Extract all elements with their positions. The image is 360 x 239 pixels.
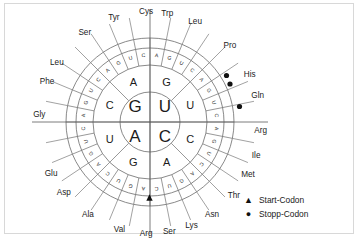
leader-line-20 xyxy=(75,181,91,197)
third-base-22: U xyxy=(82,139,89,145)
leader-line-17 xyxy=(129,204,133,226)
third-base-9: G xyxy=(211,139,218,145)
amino-acid-label-his-9: His xyxy=(244,70,256,79)
amino-acid-label-gly-0: Gly xyxy=(33,110,46,119)
amino-acid-label-pro-8: Pro xyxy=(223,41,236,50)
second-base-4: G xyxy=(129,156,138,168)
second-base-2: C xyxy=(186,133,194,145)
leader-line-2 xyxy=(182,24,190,44)
ring3-divider-19 xyxy=(103,169,118,191)
leader-line-27 xyxy=(62,63,80,75)
stop-codon-marker-uag xyxy=(227,81,232,86)
amino-acid-label-glu-22: Glu xyxy=(45,169,58,178)
ring2-divider-5 xyxy=(110,143,129,162)
leader-line-10 xyxy=(228,154,248,162)
amino-acid-label-tyr-4: Tyr xyxy=(108,13,120,22)
third-base-17: G xyxy=(128,183,134,190)
leader-line-1 xyxy=(166,18,170,40)
leader-line-12 xyxy=(209,181,225,197)
leader-line-30 xyxy=(109,24,117,44)
ring3-divider-27 xyxy=(80,75,102,90)
leader-line-31 xyxy=(129,18,133,40)
third-base-21: G xyxy=(87,150,94,156)
ring3-divider-25 xyxy=(68,106,94,111)
third-base-30: U xyxy=(128,54,134,61)
leader-line-23 xyxy=(46,138,68,142)
third-base-6: U xyxy=(211,100,218,106)
first-base-c-2: C xyxy=(159,127,171,146)
third-base-29: G xyxy=(115,59,121,66)
second-base-1: U xyxy=(186,99,194,111)
stop-codon-marker-uaa xyxy=(224,73,229,78)
amino-acid-label-asn-15: Asn xyxy=(205,210,220,219)
start-codon-marker-aug xyxy=(146,194,152,200)
amino-acid-label-thr-14: Thr xyxy=(228,191,241,200)
leader-line-26 xyxy=(52,81,72,89)
leader-line-7 xyxy=(232,101,254,105)
third-base-24: A xyxy=(80,113,86,118)
amino-acid-label-trp-6: Trp xyxy=(161,9,173,18)
amino-acid-label-phe-1: Phe xyxy=(40,77,55,86)
amino-acid-label-leu-7: Leu xyxy=(188,17,202,26)
amino-acid-label-met-13: Met xyxy=(241,170,255,179)
second-base-7: A xyxy=(130,76,138,88)
amino-acid-label-gln-10: Gln xyxy=(251,91,264,100)
third-base-18: U xyxy=(115,178,121,185)
ring3-divider-3 xyxy=(182,52,197,74)
first-base-a-3: A xyxy=(129,127,141,146)
third-base-4: A xyxy=(198,76,205,83)
third-base-26: U xyxy=(87,87,94,93)
third-base-14: U xyxy=(167,183,173,190)
amino-acid-label-ile-12: Ile xyxy=(252,151,261,160)
third-base-3: C xyxy=(189,67,196,74)
amino-acid-label-ala-20: Ala xyxy=(82,210,94,219)
legend: ▲ Start-Codon ● Stopp-Codon xyxy=(244,193,308,221)
amino-acid-label-cys-5: Cys xyxy=(139,7,153,16)
leader-line-5 xyxy=(220,63,238,75)
ring2-divider-1 xyxy=(171,82,190,101)
third-base-23: C xyxy=(80,126,86,131)
leader-line-18 xyxy=(109,200,117,220)
ring3-divider-9 xyxy=(206,133,232,138)
amino-acid-label-ser-3: Ser xyxy=(78,28,91,37)
third-base-12: A xyxy=(189,170,196,177)
legend-label-stop: Stopp-Codon xyxy=(259,207,308,222)
third-base-5: G xyxy=(206,87,213,93)
third-base-8: A xyxy=(214,127,220,132)
third-base-20: A xyxy=(94,161,101,168)
third-base-0: A xyxy=(155,52,160,58)
amino-acid-label-arg-18: Arg xyxy=(140,229,153,238)
amino-acid-label-leu-2: Leu xyxy=(50,58,64,67)
third-base-27: C xyxy=(95,76,102,83)
ring3-divider-23 xyxy=(68,133,94,138)
second-base-3: A xyxy=(163,156,171,168)
ring3-divider-15 xyxy=(161,178,166,204)
leader-line-29 xyxy=(91,34,103,52)
third-base-1: G xyxy=(167,54,173,61)
third-base-15: C xyxy=(154,186,159,192)
first-base-u-1: U xyxy=(159,97,171,116)
legend-item-start: ▲ Start-Codon xyxy=(244,193,308,207)
start-codon-triangle-icon: ▲ xyxy=(244,193,253,207)
third-base-10: U xyxy=(206,151,213,157)
ring2-divider-3 xyxy=(171,143,190,162)
ring3-divider-7 xyxy=(206,106,232,111)
ring3-divider-31 xyxy=(134,40,139,66)
third-base-19: C xyxy=(104,170,111,177)
third-base-28: A xyxy=(104,66,111,73)
ring3-divider-17 xyxy=(134,178,139,204)
third-base-16: A xyxy=(141,186,146,192)
stop-codon-circle-icon: ● xyxy=(244,207,253,221)
second-base-0: G xyxy=(162,76,171,88)
ring3-divider-1 xyxy=(161,40,166,66)
third-base-11: C xyxy=(198,161,205,168)
third-base-31: C xyxy=(141,52,146,58)
amino-acid-label-lys-16: Lys xyxy=(185,221,197,230)
amino-acid-label-arg-11: Arg xyxy=(254,126,267,135)
leader-line-14 xyxy=(182,200,190,220)
leader-line-15 xyxy=(166,204,170,226)
amino-acid-label-asp-21: Asp xyxy=(57,188,72,197)
first-base-g-0: G xyxy=(128,97,141,116)
second-base-6: C xyxy=(106,99,114,111)
third-base-2: U xyxy=(179,59,185,66)
